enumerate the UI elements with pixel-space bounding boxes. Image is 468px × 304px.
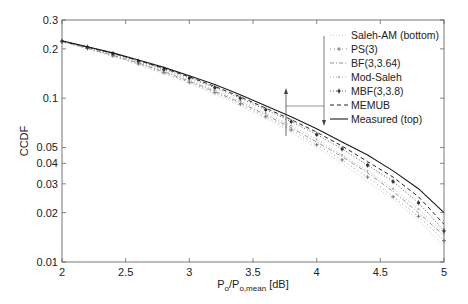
x-tick-label: 3.5: [245, 266, 260, 278]
series-mod-saleh: [61, 41, 445, 235]
legend-entry: BF(3,3.64): [330, 57, 401, 69]
x-axis-label: Po/Po,mean [dB]: [217, 278, 289, 293]
x-tick-label: 4: [314, 266, 320, 278]
legend-entry: PS(3): [330, 43, 378, 55]
legend-label: Mod-Saleh: [351, 71, 402, 83]
legend-entry: Saleh-AM (bottom): [330, 29, 439, 41]
x-tick-label: 5: [441, 266, 447, 278]
legend-label: Measured (top): [351, 113, 422, 125]
y-tick-label: 0.2: [43, 43, 58, 55]
legend-entry: MEMUB: [330, 99, 390, 111]
x-tick-label: 2.5: [118, 266, 133, 278]
y-axis-label: CCDF: [18, 125, 30, 156]
legend-label: PS(3): [351, 43, 378, 55]
y-tick-label: 0.01: [37, 256, 58, 268]
y-axis-ticks: 0.010.020.030.040.050.10.20.3: [37, 14, 444, 268]
y-tick-label: 0.03: [37, 178, 58, 190]
y-tick-label: 0.04: [37, 157, 58, 169]
ccdf-chart: 22.533.544.55 0.010.020.030.040.050.10.2…: [0, 0, 468, 304]
legend-label: MBF(3,3.8): [351, 85, 404, 97]
legend-label: BF(3,3.64): [351, 57, 401, 69]
y-tick-label: 0.05: [37, 141, 58, 153]
y-tick-label: 0.1: [43, 92, 58, 104]
x-tick-label: 3: [186, 266, 192, 278]
legend-entry: Measured (top): [330, 113, 422, 125]
y-tick-label: 0.02: [37, 207, 58, 219]
legend-label: MEMUB: [351, 99, 390, 111]
y-tick-label: 0.3: [43, 14, 58, 26]
legend-label: Saleh-AM (bottom): [351, 29, 439, 41]
x-tick-label: 2: [59, 266, 65, 278]
legend-entry: Mod-Saleh: [330, 71, 402, 83]
x-tick-label: 4.5: [373, 266, 388, 278]
legend: Saleh-AM (bottom)PS(3)BF(3,3.64)Mod-Sale…: [330, 29, 439, 125]
series-layer: [60, 39, 446, 247]
legend-entry: MBF(3,3.8): [330, 85, 404, 97]
